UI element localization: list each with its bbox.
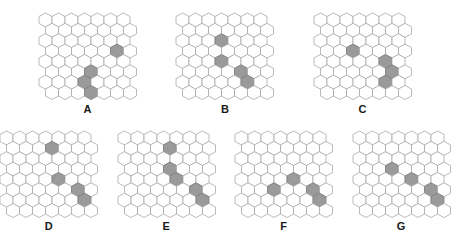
- hex-cell-empty: [385, 203, 398, 217]
- panel-label-f: F: [280, 221, 287, 232]
- hex-cell-empty: [7, 203, 20, 217]
- hex-cell-empty: [293, 203, 306, 217]
- hex-grid-a: [38, 12, 138, 101]
- hex-cell-empty: [183, 86, 196, 100]
- hex-grid-f: [234, 130, 334, 219]
- hex-grid-c: [313, 12, 413, 101]
- panel-b: B: [175, 12, 275, 115]
- hex-cell-empty: [20, 203, 33, 217]
- hex-cell-empty: [58, 203, 71, 217]
- panel-label-g: G: [397, 221, 406, 232]
- hex-cell-empty: [202, 203, 215, 217]
- panel-g: G: [352, 130, 451, 233]
- hex-cell-empty: [372, 203, 385, 217]
- hex-cell-empty: [58, 86, 71, 100]
- panel-a: A: [38, 12, 138, 115]
- hex-cell-empty: [424, 203, 437, 217]
- panel-row-bottom: DEFG: [0, 130, 450, 233]
- panel-label-b: B: [221, 104, 229, 115]
- hex-cell-empty: [137, 203, 150, 217]
- hex-cell-empty: [176, 203, 189, 217]
- hex-cell-empty: [372, 86, 385, 100]
- hex-cell-empty: [196, 86, 209, 100]
- hex-cell-empty: [71, 203, 84, 217]
- hex-cell-empty: [398, 86, 411, 100]
- hex-cell-empty: [124, 203, 137, 217]
- hex-cell-empty: [385, 86, 398, 100]
- hex-cell-empty: [189, 203, 202, 217]
- panel-f: F: [234, 130, 334, 233]
- hex-cell-empty: [268, 203, 281, 217]
- hex-cell-empty: [123, 86, 136, 100]
- hex-cell-empty: [281, 203, 294, 217]
- hex-cell-empty: [97, 86, 110, 100]
- hex-cell-empty: [359, 203, 372, 217]
- panel-label-e: E: [162, 221, 170, 232]
- hex-cell-empty: [150, 203, 163, 217]
- hex-cell-empty: [398, 203, 411, 217]
- panel-row-top: ABC: [0, 12, 450, 115]
- hex-grid-e: [117, 130, 217, 219]
- hex-cell-empty: [33, 203, 46, 217]
- hex-cell-empty: [261, 86, 274, 100]
- hex-cell-empty: [248, 86, 261, 100]
- hex-cell-empty: [110, 86, 123, 100]
- hex-cell-empty: [209, 86, 222, 100]
- panel-e: E: [117, 130, 217, 233]
- panel-d: D: [0, 130, 99, 233]
- hex-cell-empty: [84, 203, 97, 217]
- hex-cell-empty: [242, 203, 255, 217]
- hex-cell-empty: [235, 86, 248, 100]
- hex-grid-g: [352, 130, 451, 219]
- panel-label-a: A: [83, 104, 91, 115]
- hex-cell-empty: [320, 86, 333, 100]
- hex-cell-empty: [437, 203, 450, 217]
- hex-grid-b: [175, 12, 275, 101]
- hex-cell-empty: [346, 86, 359, 100]
- hex-cell-highlighted: [84, 86, 97, 100]
- hex-cell-empty: [46, 203, 59, 217]
- hex-grid-d: [0, 130, 99, 219]
- hex-cell-empty: [222, 86, 235, 100]
- panel-c: C: [313, 12, 413, 115]
- hex-cell-empty: [319, 203, 332, 217]
- panel-label-c: C: [358, 104, 366, 115]
- hex-cell-empty: [45, 86, 58, 100]
- hex-cell-empty: [359, 86, 372, 100]
- panel-label-d: D: [45, 221, 53, 232]
- hex-cell-empty: [163, 203, 176, 217]
- hex-cell-empty: [333, 86, 346, 100]
- hex-cell-empty: [255, 203, 268, 217]
- hex-cell-empty: [71, 86, 84, 100]
- hex-cell-empty: [306, 203, 319, 217]
- hex-cell-empty: [411, 203, 424, 217]
